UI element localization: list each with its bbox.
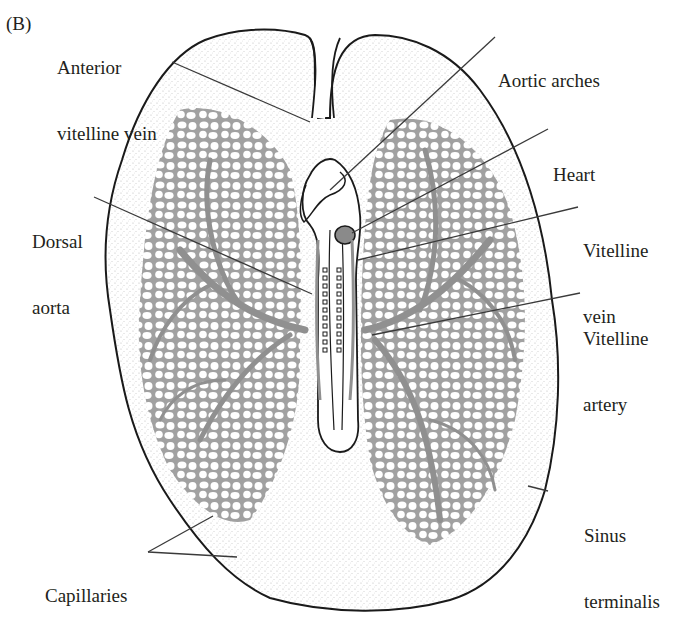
label-line: Aortic arches (498, 70, 600, 92)
label-line: Dorsal (32, 231, 83, 253)
label-vitelline-artery: Vitelline artery (583, 284, 648, 460)
label-line: artery (583, 394, 648, 416)
label-line: Vitelline (583, 240, 648, 262)
label-line: Anterior (57, 57, 157, 79)
embryo-circulation-figure: (B) Anterior vitelline vein Aortic arche… (0, 0, 685, 617)
label-sinus-terminalis: Sinus terminalis (584, 481, 660, 617)
label-line: aorta (32, 297, 83, 319)
label-line: Vitelline (583, 328, 648, 350)
label-line: vitelline vein (57, 123, 157, 145)
label-line: Sinus (584, 525, 660, 547)
label-line: terminalis (584, 591, 660, 613)
label-line: Heart (553, 164, 595, 186)
label-line: Capillaries (45, 585, 127, 607)
label-anterior-vitelline-vein: Anterior vitelline vein (57, 13, 157, 189)
panel-label: (B) (6, 13, 31, 35)
label-capillaries: Capillaries (45, 541, 127, 617)
label-dorsal-aorta: Dorsal aorta (32, 187, 83, 363)
